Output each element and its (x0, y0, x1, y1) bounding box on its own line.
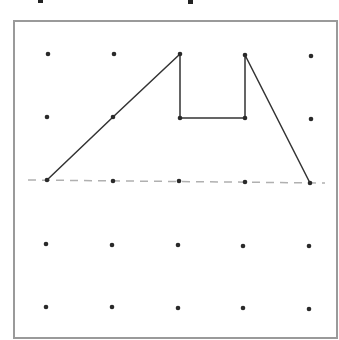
grid-dot (309, 54, 314, 59)
grid-dot (44, 305, 49, 310)
grid-dot (45, 115, 50, 120)
grid-dot (243, 180, 248, 185)
grid-dot (112, 52, 117, 57)
grid-dot (110, 305, 115, 310)
grid-dot (176, 243, 181, 248)
grid-dot (177, 179, 182, 184)
grid-dot (308, 181, 313, 186)
grid-dot (178, 52, 183, 57)
grid-dot (45, 178, 50, 183)
grid-dot (178, 116, 183, 121)
grid-dot (176, 306, 181, 311)
geoboard-diagram (0, 0, 339, 340)
grid-dot (111, 115, 116, 120)
grid-dot (309, 117, 314, 122)
grid-dot (243, 53, 248, 58)
dot-grid (44, 52, 314, 312)
grid-dot (241, 244, 246, 249)
grid-dot (241, 306, 246, 311)
grid-dot (111, 179, 116, 184)
grid-dot (46, 52, 51, 57)
frame-border (14, 21, 337, 338)
grid-dot (110, 243, 115, 248)
line-of-symmetry (28, 180, 325, 183)
grid-dot (307, 307, 312, 312)
grid-dot (307, 244, 312, 249)
grid-dot (44, 242, 49, 247)
grid-dot (243, 116, 248, 121)
grid-frame (14, 21, 337, 338)
dashed-symmetry-line (28, 180, 325, 183)
